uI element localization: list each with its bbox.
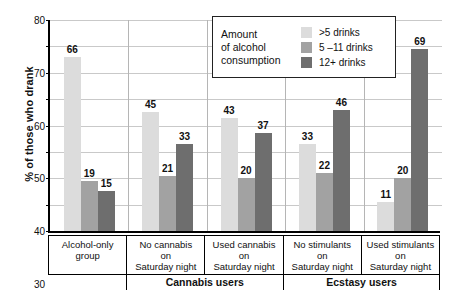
y-axis-tick-label: 50 [34, 173, 45, 184]
bar-value-label: 37 [257, 121, 268, 131]
legend-entry-label: >5 drinks [319, 27, 360, 38]
supergroup-label: Ecstasy users [283, 276, 440, 288]
y-axis-tick-label: 30 [34, 278, 45, 289]
legend-entry: 12+ drinks [301, 57, 373, 68]
legend-entry: 5 –11 drinks [301, 42, 373, 53]
legend-swatch [301, 27, 312, 38]
y-axis-tick-label: 40 [34, 226, 45, 237]
bar-group: 452133 [142, 20, 193, 231]
gridline: 0 [50, 231, 442, 232]
category-label: No stimulants on Saturday night [292, 239, 353, 272]
bar: 15 [98, 191, 115, 231]
bar-value-label: 69 [414, 37, 425, 47]
supergroup-label: Cannabis users [126, 276, 283, 288]
supergroup-divider [283, 274, 284, 290]
bar-value-label: 22 [319, 161, 330, 171]
y-axis-tick-label: 60 [34, 120, 45, 131]
legend: Amount of alcohol consumption >5 drinks5… [212, 16, 396, 78]
supergroup-headers: Cannabis usersEcstasy users [48, 276, 440, 294]
bar-value-label: 21 [162, 164, 173, 174]
bar: 45 [142, 112, 159, 231]
bar-value-label: 43 [223, 106, 234, 116]
y-axis-tick-label: 80 [34, 15, 45, 26]
bar-value-label: 33 [179, 132, 190, 142]
category-cell: No stimulants on Saturday night [284, 236, 362, 274]
bar: 46 [333, 110, 350, 231]
bar-value-label: 66 [67, 45, 78, 55]
bar-value-label: 20 [397, 166, 408, 176]
bar: 33 [176, 144, 193, 231]
legend-entry: >5 drinks [301, 27, 373, 38]
category-cell: No cannabis on Saturday night [127, 236, 205, 274]
bar: 21 [159, 176, 176, 231]
group-separator [207, 20, 208, 231]
legend-swatch [301, 57, 312, 68]
bar-chart: % of those who drank 01020304050607080 6… [0, 0, 457, 303]
bar: 43 [221, 118, 238, 231]
category-label-table: Alcohol-only groupNo cannabis on Saturda… [48, 235, 440, 275]
legend-title-line-2: of alcohol [221, 41, 295, 54]
bar: 22 [316, 173, 333, 231]
legend-title: Amount of alcohol consumption [221, 28, 295, 67]
category-cell: Used cannabis on Saturday night [205, 236, 283, 274]
bar: 33 [299, 144, 316, 231]
category-cell: Alcohol-only group [49, 236, 127, 274]
category-label: No cannabis on Saturday night [135, 239, 196, 272]
supergroup-divider [126, 274, 127, 290]
bar: 37 [255, 133, 272, 231]
category-cell: Used stimulants on Saturday night [362, 236, 439, 274]
bar: 20 [394, 178, 411, 231]
category-label: Used stimulants on Saturday night [367, 239, 435, 272]
group-separator [128, 20, 129, 231]
y-axis-tick-mark [46, 231, 50, 232]
supergroup-divider [439, 274, 440, 290]
bar: 69 [411, 49, 428, 231]
category-label: Alcohol-only group [62, 239, 114, 261]
bar: 11 [377, 202, 394, 231]
y-axis-tick-label: 70 [34, 67, 45, 78]
bar-group: 661915 [64, 20, 115, 231]
category-label: Used cannabis on Saturday night [213, 239, 276, 272]
legend-entry-label: 12+ drinks [319, 57, 365, 68]
bar-value-label: 46 [336, 98, 347, 108]
legend-title-line-3: consumption [221, 54, 295, 67]
legend-title-line-1: Amount [221, 28, 295, 41]
bar: 66 [64, 57, 81, 231]
legend-swatch [301, 42, 312, 53]
bar-value-label: 20 [240, 166, 251, 176]
legend-items: >5 drinks5 –11 drinks12+ drinks [301, 27, 373, 68]
bar: 19 [81, 181, 98, 231]
bar-value-label: 33 [302, 132, 313, 142]
bar: 20 [238, 178, 255, 231]
bar-value-label: 15 [101, 179, 112, 189]
bar-value-label: 19 [84, 169, 95, 179]
legend-entry-label: 5 –11 drinks [319, 42, 373, 53]
bar-value-label: 45 [145, 100, 156, 110]
bar-value-label: 11 [381, 190, 392, 200]
